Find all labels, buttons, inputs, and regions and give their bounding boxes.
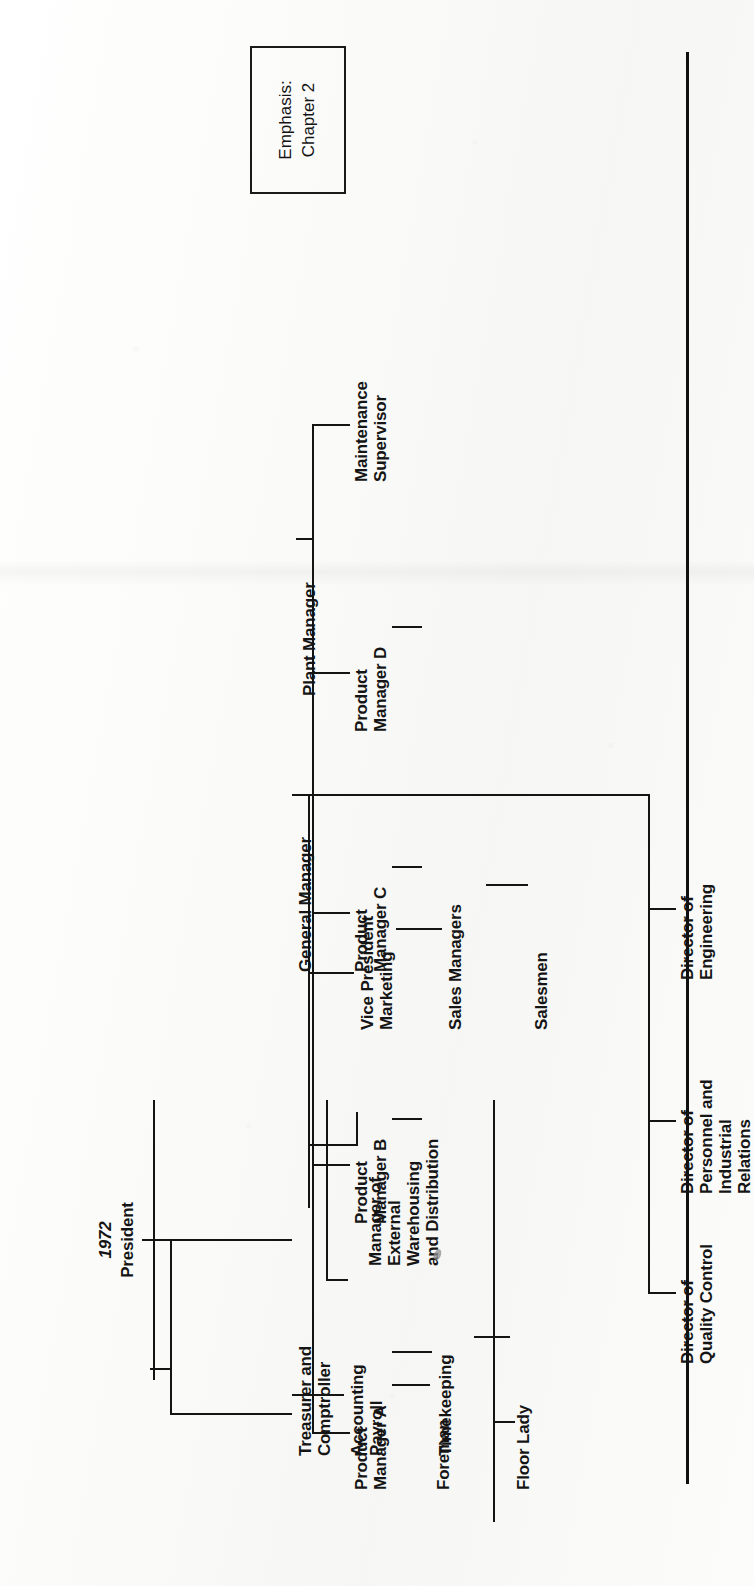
chart-year-label: 1972 bbox=[96, 1180, 115, 1300]
connector-president-bus bbox=[170, 1239, 172, 1415]
emphasis-note-text: Emphasis: Chapter 2 bbox=[275, 80, 321, 159]
node-product-manager-c: Product Manager C bbox=[352, 792, 390, 972]
connector-directors-rail bbox=[648, 794, 650, 1294]
node-salesmen: Salesmen bbox=[532, 830, 551, 1030]
connector-dir-quality-drop bbox=[648, 1292, 676, 1294]
connector-pm-c-tick bbox=[392, 866, 422, 868]
connector-treasurer-accounting bbox=[292, 1394, 344, 1396]
connector-vp-sales-managers bbox=[396, 928, 442, 930]
connector-dir-engineering-drop bbox=[648, 908, 676, 910]
connector-president-stub bbox=[142, 1239, 170, 1241]
rail-quality-branch bbox=[326, 1100, 328, 1280]
connector-mgr-external-drop bbox=[308, 1144, 358, 1146]
node-president: President bbox=[118, 1160, 137, 1320]
org-chart-stage-wrapper: 1972 President Treasurer and Comptroller… bbox=[0, 0, 754, 1586]
connector-maintenance-elbow bbox=[312, 424, 314, 538]
connector-pm-b-tick bbox=[392, 1118, 422, 1120]
connector-pm-a-foreman bbox=[392, 1384, 430, 1386]
node-director-engineering: Director of Engineering bbox=[678, 780, 716, 980]
connector-pm-c-drop bbox=[312, 912, 350, 914]
node-product-manager-a: Product Manager A bbox=[352, 1310, 390, 1490]
emphasis-note-box: Emphasis: Chapter 2 bbox=[250, 46, 346, 194]
org-chart-stage: 1972 President Treasurer and Comptroller… bbox=[0, 0, 754, 1586]
connector-pm-d-tick bbox=[392, 626, 422, 628]
node-product-manager-b: Product Manager B bbox=[352, 1044, 390, 1224]
scanned-page: 1972 President Treasurer and Comptroller… bbox=[0, 0, 754, 1586]
rail-quality-elbow bbox=[326, 1279, 348, 1281]
node-product-manager-d: Product Manager D bbox=[352, 552, 390, 732]
node-maintenance-supervisor: Maintenance Supervisor bbox=[352, 282, 390, 482]
connector-dir-personnel-drop bbox=[648, 1120, 676, 1122]
connector-accounting-timekeeping bbox=[392, 1351, 432, 1353]
connector-gm-joint-left bbox=[308, 834, 310, 880]
connector-treasurer-drop bbox=[170, 1413, 292, 1415]
connector-directors-joint bbox=[648, 974, 650, 1014]
rail-plant-elbow bbox=[493, 1421, 515, 1423]
node-director-quality-control: Director of Quality Control bbox=[678, 1164, 716, 1364]
rail-treasurer-branch bbox=[153, 1100, 155, 1380]
rail-plant-branch bbox=[493, 1100, 495, 1522]
connector-general-manager-drop bbox=[170, 1239, 292, 1241]
node-sales-managers: Sales Managers bbox=[446, 820, 465, 1030]
connector-maintenance-drop bbox=[312, 424, 350, 426]
connector-pm-a-drop bbox=[312, 1432, 350, 1434]
node-floor-lady: Floor Lady bbox=[514, 1310, 533, 1490]
connector-vp-marketing-drop bbox=[308, 972, 354, 974]
rail-treasurer-arrow bbox=[150, 1368, 172, 1370]
node-treasurer-and-comptroller: Treasurer and Comptroller bbox=[296, 1276, 334, 1456]
node-foreman: Foreman bbox=[434, 1310, 453, 1490]
node-director-personnel: Director of Personnel and Industrial Rel… bbox=[678, 974, 754, 1194]
connector-pm-d-drop bbox=[312, 672, 350, 674]
connector-sales-managers-salesmen bbox=[486, 884, 528, 886]
connector-foreman-floor-lady bbox=[474, 1336, 510, 1338]
node-plant-manager: Plant Manager bbox=[300, 496, 319, 696]
connector-pm-b-drop bbox=[312, 1164, 350, 1166]
